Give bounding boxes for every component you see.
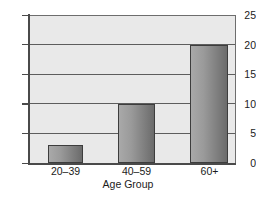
y-axis-line: [28, 14, 30, 164]
bar-60-plus: [190, 45, 228, 163]
y-tick-mark-15: [22, 74, 28, 75]
x-tick-label-60-plus: 60+: [179, 166, 240, 177]
x-axis-title: Age Group: [0, 179, 256, 190]
x-tick-label-40-59: 40–59: [106, 166, 167, 177]
y-tick-mark-10: [22, 103, 28, 104]
y-tick-mark-5: [22, 133, 28, 134]
y-tick-label-10: 10: [236, 99, 256, 110]
cropped-caption: [0, 196, 256, 201]
bar-chart: 25 20 15 10 5 0 20–39 40–59 60+ Age Grou…: [0, 0, 256, 201]
y-tick-mark-0: [22, 163, 28, 164]
y-tick-mark-25: [22, 15, 28, 16]
bar-40-59: [118, 104, 155, 163]
y-tick-label-15: 15: [236, 69, 256, 80]
y-tick-mark-20: [22, 44, 28, 45]
bar-20-39: [48, 145, 83, 163]
y-tick-label-5: 5: [236, 128, 256, 139]
x-tick-label-20-39: 20–39: [35, 166, 96, 177]
plot-top-border: [29, 15, 235, 16]
plot-right-border: [235, 15, 236, 164]
y-tick-label-25: 25: [236, 10, 256, 21]
y-tick-label-20: 20: [236, 40, 256, 51]
